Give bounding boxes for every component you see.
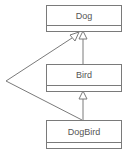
class-name: DogBird [47, 121, 121, 143]
class-dog[interactable]: Dog [46, 5, 122, 32]
class-bird[interactable]: Bird [46, 64, 122, 92]
generalization-arrowhead-icon [79, 91, 87, 99]
generalization-arrowhead-icon [79, 31, 87, 39]
class-name: Bird [47, 65, 121, 86]
class-dogbird[interactable]: DogBird [46, 120, 122, 149]
class-name: Dog [47, 6, 121, 26]
generalization-arrowhead-icon [70, 32, 79, 41]
